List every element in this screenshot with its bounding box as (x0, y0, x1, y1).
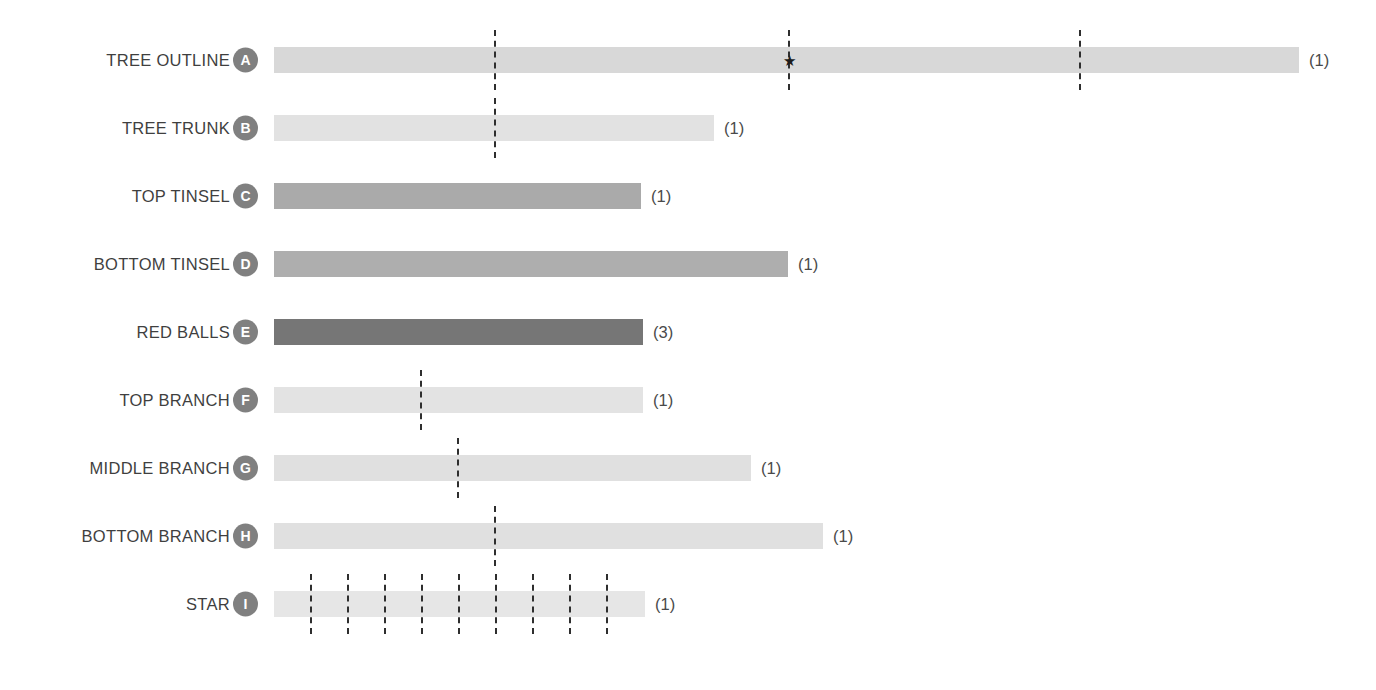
gantt-bar-chart: TREE OUTLINEA(1)★TREE TRUNKB(1)TOP TINSE… (0, 0, 1376, 690)
chart-row: BOTTOM TINSELD(1) (0, 230, 1376, 298)
marker-dashed-line (458, 574, 460, 634)
marker-dashed-line (532, 574, 534, 634)
marker-dashed-line (347, 574, 349, 634)
marker-dashed-line (494, 30, 496, 90)
row-label: BOTTOM BRANCH (82, 527, 230, 546)
bar-count-label: (1) (761, 459, 781, 478)
bar-count-label: (3) (653, 323, 673, 342)
chart-row: BOTTOM BRANCHH(1) (0, 502, 1376, 570)
bar-count-label: (1) (798, 255, 818, 274)
row-label: BOTTOM TINSEL (94, 255, 230, 274)
marker-dashed-line (569, 574, 571, 634)
marker-dashed-line (1079, 30, 1081, 90)
marker-dashed-line (421, 574, 423, 634)
row-label: TREE OUTLINE (106, 51, 230, 70)
row-label: TOP BRANCH (119, 391, 230, 410)
marker-dashed-line (495, 574, 497, 634)
row-badge-d: D (233, 252, 258, 277)
bar-count-label: (1) (653, 391, 673, 410)
bar-count-label: (1) (651, 187, 671, 206)
bar-segment (274, 387, 643, 413)
row-badge-e: E (233, 320, 258, 345)
row-label: STAR (186, 595, 230, 614)
bar-count-label: (1) (655, 595, 675, 614)
star-marker-icon: ★ (783, 53, 796, 68)
marker-dashed-line (457, 438, 459, 498)
chart-row: MIDDLE BRANCHG(1) (0, 434, 1376, 502)
row-badge-a: A (233, 48, 258, 73)
chart-row: STARI(1) (0, 570, 1376, 638)
row-label: TREE TRUNK (122, 119, 230, 138)
bar-segment (274, 319, 643, 345)
row-badge-c: C (233, 184, 258, 209)
marker-dashed-line (606, 574, 608, 634)
row-badge-b: B (233, 116, 258, 141)
row-badge-i: I (233, 592, 258, 617)
chart-row: RED BALLSE(3) (0, 298, 1376, 366)
bar-count-label: (1) (833, 527, 853, 546)
chart-row: TREE TRUNKB(1) (0, 94, 1376, 162)
bar-count-label: (1) (1309, 51, 1329, 70)
bar-segment (274, 183, 641, 209)
marker-dashed-line (384, 574, 386, 634)
marker-dashed-line (494, 506, 496, 566)
bar-count-label: (1) (724, 119, 744, 138)
row-label: RED BALLS (137, 323, 231, 342)
chart-row: TOP TINSELC(1) (0, 162, 1376, 230)
marker-dashed-line (420, 370, 422, 430)
row-label: MIDDLE BRANCH (89, 459, 230, 478)
bar-segment (274, 251, 788, 277)
bar-segment (274, 455, 751, 481)
chart-row: TOP BRANCHF(1) (0, 366, 1376, 434)
row-badge-g: G (233, 456, 258, 481)
marker-dashed-line (310, 574, 312, 634)
row-label: TOP TINSEL (132, 187, 230, 206)
marker-dashed-line (494, 98, 496, 158)
chart-row: TREE OUTLINEA(1)★ (0, 26, 1376, 94)
row-badge-h: H (233, 524, 258, 549)
bar-segment (274, 523, 823, 549)
row-badge-f: F (233, 388, 258, 413)
